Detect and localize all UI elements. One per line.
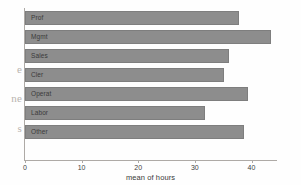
x-tick-mark — [138, 160, 139, 163]
x-tick-mark — [82, 160, 83, 163]
bar-label-prof: Prof — [31, 13, 43, 23]
bar-series: Prof Mgmt Sales Cler Operat Labor — [25, 8, 277, 160]
bar-row: Other — [25, 122, 277, 141]
x-tick-label: 20 — [134, 164, 142, 171]
bar-label-labor: Labor — [31, 108, 48, 118]
x-axis-title: mean of hours — [24, 173, 277, 182]
x-tick-label: 40 — [248, 164, 256, 171]
bar-other — [25, 125, 244, 139]
bar-label-operat: Operat — [31, 89, 51, 99]
bar-label-cler: Cler — [31, 70, 43, 80]
bar-label-sales: Sales — [31, 51, 48, 61]
x-tick-label: 10 — [78, 164, 86, 171]
x-tick-label: 0 — [23, 164, 27, 171]
bar-row: Operat — [25, 84, 277, 103]
bar-row: Labor — [25, 103, 277, 122]
bar-mgmt — [25, 30, 271, 44]
bar-row: Prof — [25, 8, 277, 27]
bar-prof — [25, 11, 239, 25]
bar-labor — [25, 106, 205, 120]
chart-figure: e ne s Prof Mgmt Sales Cler — [0, 0, 301, 185]
bar-sales — [25, 49, 229, 63]
x-tick-mark — [25, 160, 26, 163]
bar-operat — [25, 87, 248, 101]
bar-label-mgmt: Mgmt — [31, 32, 48, 42]
bar-row: Cler — [25, 65, 277, 84]
plot-area: Prof Mgmt Sales Cler Operat Labor — [0, 0, 301, 185]
bar-row: Mgmt — [25, 27, 277, 46]
bar-label-other: Other — [31, 127, 48, 137]
x-tick-mark — [252, 160, 253, 163]
bar-cler — [25, 68, 224, 82]
x-tick-mark — [195, 160, 196, 163]
x-tick-label: 30 — [191, 164, 199, 171]
bar-row: Sales — [25, 46, 277, 65]
